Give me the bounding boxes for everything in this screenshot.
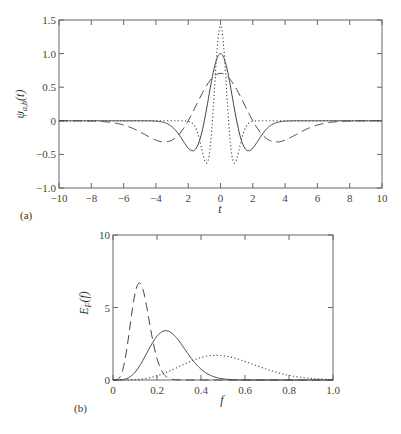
plot-frame-a: [59, 20, 382, 188]
y-axis-label-a: ψa,b(t): [13, 90, 29, 119]
axis-ticks-a: −10−8−6−420246810−1.0−0.500.51.01.5: [36, 14, 388, 204]
y-tick-label: 0.5: [42, 81, 56, 93]
x-tick-label: 4: [282, 192, 288, 204]
y-tick-label: 1.0: [42, 48, 56, 60]
curves-b: [113, 283, 333, 380]
x-tick-label: 2: [185, 192, 191, 204]
chart-panel-b: 00.20.40.60.81.00510 f EF(f) (b): [74, 229, 340, 415]
curve-solid: [59, 54, 382, 151]
curve-dashed: [59, 73, 382, 142]
spectrum-solid: [113, 331, 333, 380]
x-tick-label: 6: [315, 192, 321, 204]
x-axis-label-b: f: [220, 393, 225, 407]
figure: −10−8−6−420246810−1.0−0.500.51.01.5 t ψa…: [0, 0, 401, 434]
panel-label-b: (b): [74, 402, 87, 415]
y-tick-label: −0.5: [36, 148, 56, 160]
curves-a: [59, 26, 382, 163]
x-tick-label: −8: [85, 192, 97, 204]
x-tick-label: −4: [150, 192, 162, 204]
x-tick-label: 1.0: [326, 384, 340, 396]
y-tick-label: 1.5: [42, 14, 56, 26]
y-tick-label: 10: [99, 229, 111, 241]
axis-ticks-b: 00.20.40.60.81.00510: [99, 229, 340, 396]
y-tick-label: 0: [51, 115, 57, 127]
x-tick-label: 0.2: [150, 384, 164, 396]
x-tick-label: 0.8: [282, 384, 296, 396]
x-tick-label: 0: [110, 384, 116, 396]
x-tick-label: 0.6: [238, 384, 252, 396]
curve-dotted: [59, 26, 382, 163]
plot-frame-b: [113, 235, 333, 380]
x-tick-label: 8: [347, 192, 353, 204]
x-axis-label-a: t: [218, 202, 222, 216]
x-tick-label: 10: [377, 192, 389, 204]
y-axis-label-b: EF(f): [77, 291, 93, 316]
spectrum-dashed: [113, 283, 333, 380]
x-tick-label: 2: [250, 192, 256, 204]
y-tick-label: 5: [105, 302, 111, 314]
y-tick-label: −1.0: [36, 182, 56, 194]
spectrum-dotted: [113, 355, 333, 380]
x-tick-label: −6: [118, 192, 130, 204]
y-tick-label: 0: [105, 374, 111, 386]
chart-panel-a: −10−8−6−420246810−1.0−0.500.51.01.5 t ψa…: [13, 14, 388, 222]
x-tick-label: 0.4: [194, 384, 208, 396]
panel-label-a: (a): [20, 209, 33, 222]
